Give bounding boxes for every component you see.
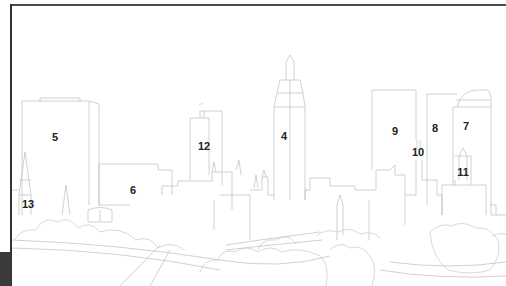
label-4: 4 bbox=[281, 131, 287, 142]
label-5: 5 bbox=[52, 132, 58, 143]
building-13-spire bbox=[12, 152, 70, 215]
building-7 bbox=[453, 90, 491, 215]
skyline-line-art bbox=[0, 0, 506, 286]
label-8: 8 bbox=[432, 123, 438, 134]
midtown-lowrise bbox=[162, 160, 506, 240]
label-7: 7 bbox=[463, 121, 469, 132]
building-11 bbox=[442, 148, 486, 215]
label-11: 11 bbox=[457, 167, 469, 178]
label-6: 6 bbox=[130, 185, 136, 196]
skyline-diagram: 4 5 6 7 8 9 10 11 12 13 bbox=[0, 0, 506, 286]
ground-roads bbox=[12, 232, 506, 286]
label-10: 10 bbox=[412, 147, 424, 158]
building-4 bbox=[274, 55, 305, 200]
label-12: 12 bbox=[198, 141, 210, 152]
label-13: 13 bbox=[22, 199, 34, 210]
label-9: 9 bbox=[392, 126, 398, 137]
